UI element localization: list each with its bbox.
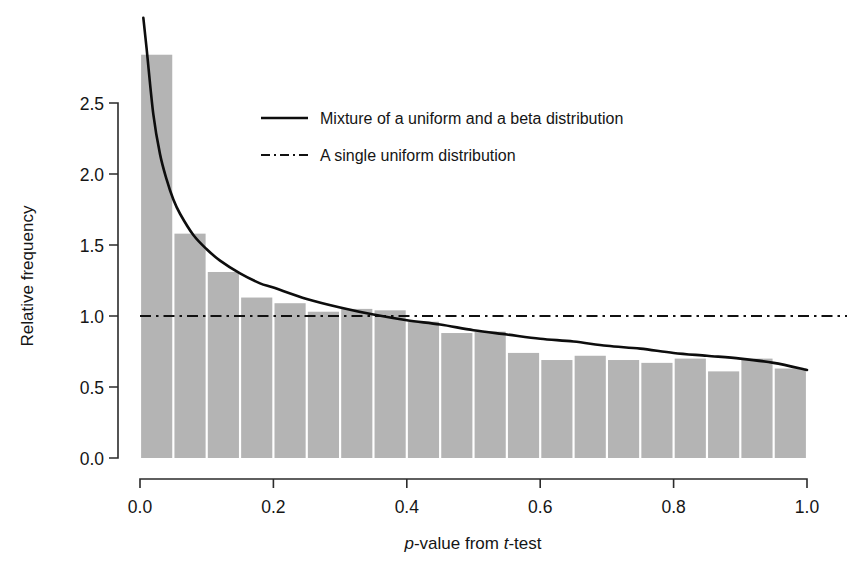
x-tick-label: 0.0: [128, 497, 153, 517]
histogram-bar: [141, 55, 172, 458]
histogram-bar: [675, 359, 706, 458]
histogram-bar: [375, 310, 406, 458]
y-tick-label: 2.5: [80, 94, 104, 114]
x-tick-label: 0.4: [395, 497, 420, 517]
y-tick-label: 1.5: [80, 236, 104, 256]
legend-label-mixture: Mixture of a uniform and a beta distribu…: [320, 110, 623, 127]
histogram-bar: [541, 360, 572, 458]
histogram-bar: [741, 359, 772, 458]
y-tick-label: 1.0: [80, 307, 105, 327]
histogram-bar: [441, 333, 472, 458]
histogram-bar: [608, 360, 639, 458]
histogram-bar: [708, 371, 739, 458]
legend-label-uniform: A single uniform distribution: [320, 147, 516, 164]
histogram-bar: [174, 234, 205, 458]
histogram-bar: [241, 298, 272, 458]
y-tick-labels: 0.00.51.01.52.02.5: [80, 94, 105, 469]
y-tick-label: 0.5: [80, 378, 104, 398]
chart-figure: 0.00.51.01.52.02.5 0.00.20.40.60.81.0 Re…: [0, 0, 857, 573]
histogram-bar: [408, 322, 439, 458]
histogram-bar: [308, 312, 339, 458]
x-tick-label: 0.2: [261, 497, 285, 517]
histogram-bar: [341, 309, 372, 458]
x-tick-label: 1.0: [795, 497, 820, 517]
histogram-bar: [208, 272, 239, 458]
histogram-chart: 0.00.51.01.52.02.5 0.00.20.40.60.81.0 Re…: [0, 0, 857, 573]
y-tick-label: 0.0: [80, 449, 105, 469]
y-axis: [109, 103, 118, 458]
x-tick-label: 0.6: [528, 497, 552, 517]
x-axis: [140, 479, 807, 488]
histogram-bar: [775, 369, 806, 458]
x-tick-label: 0.8: [661, 497, 685, 517]
histogram-bar: [275, 303, 306, 458]
histogram-bar: [508, 353, 539, 458]
y-axis-title: Relative frequency: [18, 205, 37, 346]
histogram-bar: [475, 332, 506, 458]
x-axis-line: [140, 479, 807, 488]
y-axis-line: [109, 103, 118, 458]
histogram-bar: [641, 363, 672, 458]
histogram-bar: [575, 356, 606, 458]
y-tick-label: 2.0: [80, 165, 105, 185]
x-tick-labels: 0.00.20.40.60.81.0: [128, 497, 820, 517]
x-axis-title: p-value from t-test: [403, 534, 541, 553]
legend: Mixture of a uniform and a beta distribu…: [261, 110, 623, 164]
